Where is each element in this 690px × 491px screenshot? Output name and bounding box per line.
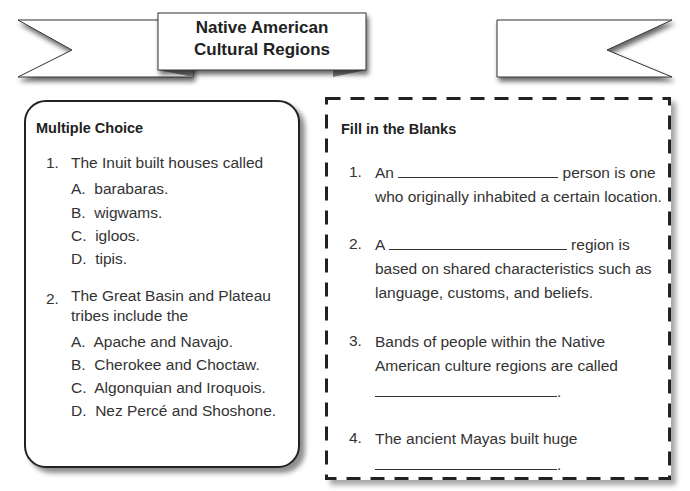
question-number: 3. bbox=[349, 332, 362, 350]
answer-blank[interactable] bbox=[375, 455, 557, 470]
section-heading: Fill in the Blanks bbox=[341, 121, 456, 137]
question-text: Bands of people within the Native Americ… bbox=[375, 330, 618, 404]
question-text: The ancient Mayas built huge . bbox=[375, 427, 577, 477]
answer-option[interactable]: B. Cherokee and Choctaw. bbox=[71, 356, 260, 374]
question-text: The Inuit built houses called bbox=[71, 151, 263, 174]
question-number: 4. bbox=[349, 429, 362, 447]
answer-option[interactable]: D. Nez Percé and Shoshone. bbox=[71, 402, 276, 420]
worksheet-title: Native American Cultural Regions bbox=[158, 17, 366, 67]
title-banner: Native American Cultural Regions bbox=[0, 0, 690, 90]
answer-blank[interactable] bbox=[389, 235, 567, 250]
title-line-2: Cultural Regions bbox=[158, 39, 366, 61]
answer-option[interactable]: A. Apache and Navajo. bbox=[71, 333, 233, 351]
answer-blank[interactable] bbox=[398, 163, 558, 178]
answer-blank[interactable] bbox=[375, 382, 557, 397]
question-text: A region is based on shared characterist… bbox=[375, 233, 652, 305]
question-number: 1. bbox=[46, 154, 59, 172]
multiple-choice-section: Multiple Choice 1. The Inuit built house… bbox=[24, 100, 300, 468]
answer-option[interactable]: B. wigwams. bbox=[71, 204, 162, 222]
section-heading: Multiple Choice bbox=[36, 120, 143, 136]
question-text: An person is one who originally inhabite… bbox=[375, 161, 662, 209]
answer-option[interactable]: C. igloos. bbox=[71, 227, 140, 245]
answer-option[interactable]: A. barabaras. bbox=[71, 180, 168, 198]
fill-in-blanks-section: Fill in the Blanks 1. An person is one w… bbox=[325, 97, 671, 480]
question-text: The Great Basin and Plateau tribes inclu… bbox=[71, 286, 271, 326]
title-line-1: Native American bbox=[158, 17, 366, 39]
question-number: 1. bbox=[349, 163, 362, 181]
question-number: 2. bbox=[349, 235, 362, 253]
answer-option[interactable]: C. Algonquian and Iroquois. bbox=[71, 379, 266, 397]
answer-option[interactable]: D. tipis. bbox=[71, 250, 127, 268]
question-number: 2. bbox=[46, 290, 59, 308]
